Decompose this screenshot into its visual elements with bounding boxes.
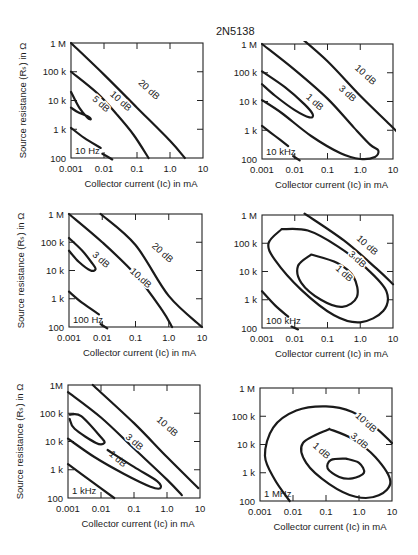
y-tick-label: 100 xyxy=(241,323,257,334)
x-tick-label: 0.001 xyxy=(250,164,274,175)
x-tick-label: 0.01 xyxy=(95,163,114,174)
y-tick-label: 1 M xyxy=(241,39,257,50)
x-axis-label: Collector current (Iᴄ) in mA xyxy=(275,179,389,190)
contour-label: 10 dB xyxy=(155,414,181,439)
chart-panel-top-right: 0.0010.010.11.0101001 k10 k100 k1 MColle… xyxy=(234,35,401,190)
x-tick-label: 0.001 xyxy=(250,333,274,344)
x-tick-label: 10 xyxy=(387,506,398,517)
contour-line-unlabeled xyxy=(68,439,161,489)
x-tick-label: 0.1 xyxy=(129,332,142,343)
y-tick-label: 1 M xyxy=(50,38,66,49)
contour-label: 1 dB xyxy=(311,440,333,461)
frequency-label: 10 kHz xyxy=(266,146,296,157)
x-axis-label: Collector current (Iᴄ) in mA xyxy=(274,521,388,532)
contour-label: 10 dB xyxy=(353,62,379,87)
x-tick-label: 1.0 xyxy=(162,332,175,343)
y-tick-label: 10 k xyxy=(237,439,255,450)
x-axis-label: Collector current (Iᴄ) in mA xyxy=(83,347,197,358)
contour-label: 20 dB xyxy=(136,77,162,102)
y-axis-label: Source resistance (Rₛ) in Ω xyxy=(17,43,28,159)
y-tick-label: 1 M xyxy=(239,383,255,394)
y-tick-label: 10 k xyxy=(46,265,64,276)
x-tick-label: 0.001 xyxy=(56,503,80,514)
x-tick-label: 1.0 xyxy=(354,333,367,344)
frequency-label: 1 kHz xyxy=(72,485,97,496)
x-tick-label: 0.01 xyxy=(286,164,305,175)
y-tick-label: 10 k xyxy=(48,95,66,106)
contour-line-20db xyxy=(101,214,202,327)
y-tick-label: 10 k xyxy=(239,96,257,107)
y-tick-label: 100 k xyxy=(41,237,64,248)
x-tick-label: 0.001 xyxy=(59,163,83,174)
x-tick-label: 0.001 xyxy=(248,506,272,517)
y-tick-label: 1 k xyxy=(244,125,257,136)
frequency-label: 100 Hz xyxy=(73,314,103,325)
noise-figure-contour-charts: 0.0010.010.11.0101001 k10 k100 k1 MColle… xyxy=(0,0,418,555)
contour-line-unlabeled xyxy=(262,126,288,146)
frequency-label: 100 kHz xyxy=(266,315,301,326)
contour-label: 3 dB xyxy=(349,430,371,451)
x-tick-label: 10 xyxy=(197,332,208,343)
frequency-label: 10 Hz xyxy=(75,145,100,156)
x-axis-label: Collector current (Iᴄ) in mA xyxy=(275,348,389,359)
y-tick-label: 100 k xyxy=(234,238,257,249)
y-axis-label: Source resistance (Rₛ) in Ω xyxy=(14,384,25,500)
y-tick-label: 100 xyxy=(47,493,63,504)
x-axis-label: Collector current (Iᴄ) in mA xyxy=(85,178,199,189)
x-tick-label: 1.0 xyxy=(160,503,173,514)
x-tick-label: 0.01 xyxy=(286,333,305,344)
y-tick-label: 100 xyxy=(48,322,64,333)
x-tick-label: 10 xyxy=(198,163,209,174)
x-tick-label: 0.01 xyxy=(93,332,112,343)
contour-line-unlabeled xyxy=(101,324,108,328)
contour-line-3db xyxy=(68,392,182,495)
chart-panel-bottom-left: 0.0010.010.11.0101001 k10 k100 k1MCollec… xyxy=(14,380,205,530)
x-tick-label: 0.1 xyxy=(321,164,334,175)
x-tick-label: 0.01 xyxy=(284,506,303,517)
x-tick-label: 0.1 xyxy=(319,506,332,517)
y-tick-label: 100 k xyxy=(232,411,255,422)
y-tick-label: 100 xyxy=(50,153,66,164)
chart-panel-top-left: 0.0010.010.11.0101001 k10 k100 k1 MColle… xyxy=(17,38,208,190)
x-tick-label: 0.1 xyxy=(321,333,334,344)
chart-panel-bottom-right: 0.0010.010.11.0101001 k10 k100 k1 MColle… xyxy=(232,383,398,533)
x-tick-label: 10 xyxy=(195,503,206,514)
y-tick-label: 1 k xyxy=(50,464,63,475)
y-tick-label: 100 k xyxy=(40,408,63,419)
contour-label: 1 dB xyxy=(334,263,356,284)
y-tick-label: 100 xyxy=(241,154,257,165)
contour-line-unlabeled xyxy=(291,327,298,330)
x-tick-label: 0.01 xyxy=(92,503,111,514)
contour-label: 3 dB xyxy=(337,83,359,104)
x-tick-label: 1.0 xyxy=(354,164,367,175)
contour-line-unlabeled xyxy=(69,292,99,315)
contour-label: 20 dB xyxy=(150,240,176,265)
y-tick-label: 1 k xyxy=(242,467,255,478)
y-tick-label: 1 k xyxy=(51,293,64,304)
x-tick-label: 1.0 xyxy=(352,506,365,517)
y-tick-label: 10 k xyxy=(45,436,63,447)
x-tick-label: 0.001 xyxy=(57,332,81,343)
y-axis-label: Source resistance (Rₛ) in Ω xyxy=(15,213,26,329)
contour-line-5db xyxy=(71,92,91,119)
y-tick-label: 100 k xyxy=(43,66,66,77)
x-tick-label: 1.0 xyxy=(163,163,176,174)
y-tick-label: 10 k xyxy=(239,266,257,277)
y-tick-label: 100 k xyxy=(234,67,257,78)
y-tick-label: 1 k xyxy=(244,294,257,305)
contour-line-1db xyxy=(70,414,105,444)
x-tick-label: 0.1 xyxy=(127,503,140,514)
x-tick-label: 10 xyxy=(388,333,399,344)
y-tick-label: 1 M xyxy=(48,209,64,220)
y-tick-label: 1M xyxy=(50,380,63,391)
y-tick-label: 1 k xyxy=(53,124,66,135)
y-tick-label: 1 M xyxy=(241,210,257,221)
contour-line-1db xyxy=(327,459,364,479)
plot-frame xyxy=(260,388,392,501)
contour-line-unlabeled xyxy=(262,291,288,316)
x-tick-label: 10 xyxy=(388,164,399,175)
x-tick-label: 0.1 xyxy=(130,163,143,174)
contour-line-3db xyxy=(301,429,390,498)
chart-panel-middle-right: 0.0010.010.11.0101001 k10 k100 k1 MColle… xyxy=(234,210,399,360)
contour-line-unlabeled xyxy=(293,156,300,160)
